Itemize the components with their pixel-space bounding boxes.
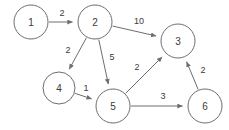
- nodes-layer: 123456: [14, 5, 222, 123]
- graph-edge-6-to-3: [187, 62, 198, 90]
- edge-weight-2-to-4: 2: [65, 45, 70, 55]
- node-label-5: 5: [110, 101, 116, 112]
- node-label-2: 2: [92, 17, 98, 28]
- node-label-1: 1: [28, 17, 34, 28]
- edge-weight-2-to-5: 5: [109, 52, 114, 62]
- edge-weight-2-to-3: 10: [134, 16, 144, 26]
- edge-weight-5-to-3: 2: [134, 62, 139, 72]
- graph-edge-4-to-5: [75, 93, 92, 99]
- graph-edge-2-to-4: [69, 38, 86, 69]
- node-label-4: 4: [56, 83, 62, 94]
- edge-weight-4-to-5: 1: [83, 83, 88, 93]
- graph-node-1[interactable]: 1: [14, 5, 48, 39]
- graph-svg: 123456 210251232: [0, 0, 229, 130]
- graph-edge-5-to-3: [126, 57, 162, 93]
- edge-weight-6-to-3: 2: [200, 65, 205, 75]
- graph-node-6[interactable]: 6: [188, 89, 222, 123]
- graph-node-2[interactable]: 2: [78, 5, 112, 39]
- node-label-3: 3: [175, 36, 181, 47]
- graph-edge-2-to-5: [99, 40, 109, 84]
- edge-weight-5-to-6: 3: [160, 91, 165, 101]
- node-label-6: 6: [202, 101, 208, 112]
- edge-weight-1-to-2: 2: [59, 8, 64, 18]
- graph-edge-2-to-3: [113, 26, 157, 36]
- graph-node-3[interactable]: 3: [161, 24, 195, 58]
- graph-node-5[interactable]: 5: [96, 89, 130, 123]
- graph-node-4[interactable]: 4: [43, 72, 75, 104]
- graph-diagram: 123456 210251232: [0, 0, 229, 130]
